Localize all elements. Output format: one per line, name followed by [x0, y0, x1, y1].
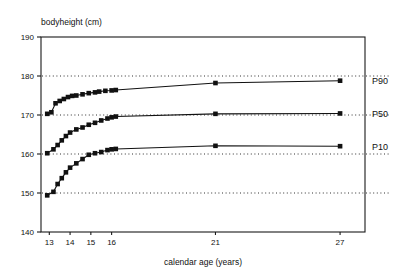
data-point-marker — [113, 114, 118, 119]
x-tick-label-13: 13 — [45, 238, 54, 247]
data-point-marker — [109, 115, 114, 120]
data-point-marker — [80, 92, 85, 97]
data-point-marker — [57, 99, 62, 104]
x-tick-label-15: 15 — [86, 238, 95, 247]
data-point-marker — [64, 134, 69, 139]
y-tick-label-190: 190 — [21, 33, 35, 42]
data-point-marker — [74, 161, 79, 166]
data-point-marker — [80, 125, 85, 130]
x-tick-label-21: 21 — [211, 238, 220, 247]
data-point-marker — [109, 88, 114, 93]
data-point-marker — [45, 112, 50, 117]
data-point-marker — [113, 147, 118, 152]
data-point-marker — [66, 95, 71, 100]
x-tick-label-16: 16 — [107, 238, 116, 247]
data-point-marker — [113, 88, 118, 93]
data-point-marker — [97, 89, 102, 94]
data-point-marker — [68, 165, 73, 170]
x-tick-label-14: 14 — [66, 238, 75, 247]
data-point-marker — [64, 170, 69, 175]
data-point-marker — [45, 151, 50, 156]
data-point-marker — [86, 122, 91, 127]
data-point-marker — [213, 144, 218, 149]
data-point-marker — [45, 193, 50, 198]
series-line-p90 — [47, 81, 340, 114]
data-point-marker — [109, 147, 114, 152]
data-point-marker — [99, 118, 104, 123]
bodyheight-vs-age-line-chart: bodyheight (cm) 140150160170180190 13141… — [0, 0, 402, 276]
data-point-marker — [49, 110, 54, 115]
data-point-marker — [213, 112, 218, 117]
series-line-p10 — [47, 146, 340, 196]
data-point-marker — [80, 157, 85, 162]
series-label-p10: P10 — [372, 142, 388, 152]
data-point-marker — [93, 151, 98, 156]
y-tick-label-180: 180 — [21, 72, 35, 81]
y-axis-title: bodyheight (cm) — [41, 17, 102, 27]
series-line-p50 — [47, 113, 340, 153]
data-point-marker — [86, 152, 91, 157]
series-label-p50: P50 — [372, 109, 388, 119]
data-point-marker — [68, 130, 73, 135]
y-tick-label-170: 170 — [21, 111, 35, 120]
data-point-marker — [53, 101, 58, 106]
data-point-marker — [59, 138, 64, 143]
series-p90 — [45, 78, 342, 116]
x-tick-label-27: 27 — [336, 238, 345, 247]
series-label-p90: P90 — [372, 76, 388, 86]
y-tick-label-150: 150 — [21, 189, 35, 198]
y-tick-label-140: 140 — [21, 228, 35, 237]
series-labels-group: P90P50P10 — [372, 76, 388, 152]
data-point-marker — [338, 78, 343, 83]
x-axis-title: calendar age (years) — [164, 257, 242, 267]
data-series-group — [45, 78, 342, 197]
data-point-marker — [105, 116, 110, 121]
data-point-marker — [103, 89, 108, 94]
series-p10 — [45, 144, 342, 198]
data-point-marker — [213, 81, 218, 86]
data-point-marker — [93, 90, 98, 95]
data-point-marker — [74, 127, 79, 132]
data-point-marker — [105, 148, 110, 153]
data-point-marker — [86, 91, 91, 96]
plot-frame — [41, 37, 365, 232]
data-point-marker — [51, 147, 56, 152]
x-axis-ticks: 131415162127 — [45, 232, 345, 247]
data-point-marker — [93, 121, 98, 126]
data-point-marker — [51, 190, 56, 195]
data-point-marker — [99, 150, 104, 155]
data-point-marker — [55, 182, 60, 187]
y-tick-label-160: 160 — [21, 150, 35, 159]
series-p50 — [45, 111, 342, 155]
data-point-marker — [59, 176, 64, 181]
data-point-marker — [338, 144, 343, 149]
y-axis-ticks: 140150160170180190 — [21, 33, 41, 237]
data-point-marker — [70, 94, 75, 99]
data-point-marker — [62, 97, 67, 102]
chart-container: bodyheight (cm) 140150160170180190 13141… — [0, 0, 402, 276]
data-point-marker — [74, 93, 79, 98]
data-point-marker — [55, 143, 60, 148]
data-point-marker — [338, 111, 343, 116]
